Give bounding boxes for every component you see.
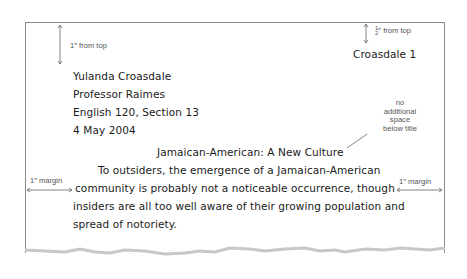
top-margin-arrow-icon bbox=[56, 24, 64, 66]
note-line: below title bbox=[370, 125, 430, 134]
heading-course: English 120, Section 13 bbox=[73, 106, 199, 118]
left-margin-label: 1″ margin bbox=[30, 176, 62, 185]
heading-date: 4 May 2004 bbox=[73, 124, 136, 136]
header-margin-arrow-icon bbox=[362, 23, 370, 45]
header-margin-suffix: ″ from top bbox=[378, 26, 411, 35]
right-margin-label: 1″ margin bbox=[399, 177, 431, 186]
body-line: community is probably not a noticeable o… bbox=[75, 182, 395, 194]
running-header: Croasdale 1 bbox=[353, 48, 416, 60]
right-margin-arrow-icon bbox=[396, 187, 444, 193]
title-note-pointer-icon bbox=[345, 132, 370, 152]
body-line: To outsiders, the emergence of a Jamaica… bbox=[98, 164, 381, 176]
heading-name: Yulanda Croasdale bbox=[73, 70, 171, 82]
torn-edge-decoration bbox=[25, 246, 445, 260]
title-spacing-note: no additional space below title bbox=[370, 99, 430, 133]
heading-professor: Professor Raimes bbox=[73, 88, 165, 100]
top-margin-label: 1″ from top bbox=[70, 41, 107, 50]
paper-title: Jamaican-American: A New Culture bbox=[157, 146, 344, 158]
header-margin-label: 12″ from top bbox=[375, 26, 411, 36]
body-line: spread of notoriety. bbox=[73, 218, 177, 230]
left-margin-arrow-icon bbox=[26, 187, 74, 193]
body-line: insiders are all too well aware of their… bbox=[73, 200, 405, 212]
